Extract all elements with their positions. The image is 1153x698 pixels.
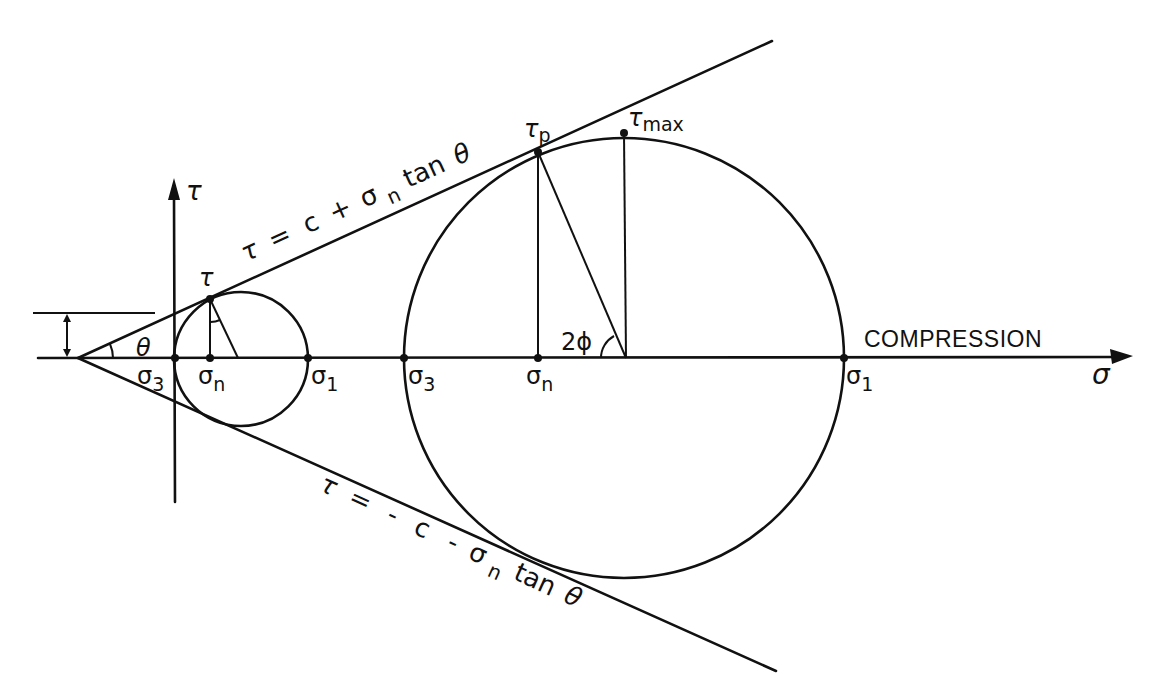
sigma-axis-label: σ xyxy=(1092,358,1111,391)
tau-axis-label: τ xyxy=(186,176,202,206)
large-sigman-label: σn xyxy=(526,362,553,395)
two-phi-label: 2ϕ xyxy=(561,328,592,356)
large-sigman-point xyxy=(534,354,542,362)
small-sigma3-point xyxy=(171,354,179,362)
upper-envelope-equation: τ = c + σ n tan θ xyxy=(236,137,479,275)
small-angle-arc xyxy=(210,320,220,322)
tau-max-line xyxy=(624,133,626,358)
mohr-diagram: τ σ COMPRESSION θ τ = c + σ n tan θ τ = … xyxy=(0,0,1153,698)
theta-arc xyxy=(110,344,113,358)
cohesion-arrow-down-icon xyxy=(63,349,71,357)
small-tau-label: τ xyxy=(199,264,214,292)
tau-p-point xyxy=(534,148,542,156)
compression-label: COMPRESSION xyxy=(864,326,1042,352)
small-radius-line xyxy=(210,299,238,358)
cohesion-arrow-up-icon xyxy=(63,314,71,322)
small-sigman-label: σn xyxy=(198,362,225,395)
two-phi-arc xyxy=(601,336,614,358)
tau-max-point xyxy=(620,129,628,137)
small-tau-point xyxy=(206,295,214,303)
large-sigma3-label: σ3 xyxy=(408,362,435,395)
tau-max-label: τmax xyxy=(628,104,684,135)
large-sigma3-point xyxy=(400,354,408,362)
small-sigma1-label: σ1 xyxy=(311,362,338,395)
sigma-axis xyxy=(38,357,1120,358)
large-sigma1-point xyxy=(840,354,848,362)
tau-axis-arrow-icon xyxy=(168,178,180,200)
sigma-axis-arrow-icon xyxy=(1110,349,1133,364)
large-sigma1-label: σ1 xyxy=(846,362,873,395)
small-sigma1-point xyxy=(304,354,312,362)
upper-failure-envelope xyxy=(78,41,772,358)
tau-p-label: τp xyxy=(524,115,551,146)
svg-text:τ = c +: τ = c + σ n tan θ xyxy=(236,137,479,275)
theta-label: θ xyxy=(136,334,151,362)
small-sigman-point xyxy=(206,354,214,362)
